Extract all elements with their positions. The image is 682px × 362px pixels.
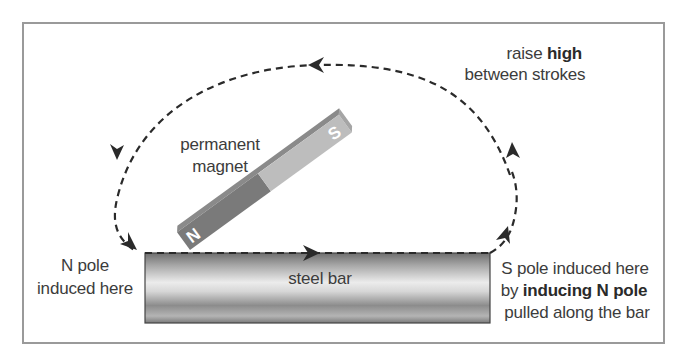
s-pole-label-line2: by inducing N pole bbox=[488, 280, 660, 301]
steel-bar-label: steel bar bbox=[260, 268, 380, 289]
between-strokes-label: between strokes bbox=[455, 64, 595, 85]
magnet-label-line1: permanent bbox=[170, 134, 270, 155]
s-pole-bold: inducing N pole bbox=[523, 281, 648, 300]
raise-high-label: raise high bbox=[460, 43, 582, 64]
raise-prefix: raise bbox=[507, 44, 547, 63]
s-pole-label-line3: pulled along the bar bbox=[492, 302, 662, 323]
arrow-down-icon bbox=[110, 144, 124, 160]
arrow-up-icon bbox=[506, 142, 520, 158]
s-pole-label-line1: S pole induced here bbox=[490, 258, 660, 279]
n-pole-label-line2: induced here bbox=[30, 278, 140, 299]
n-pole-label-line1: N pole bbox=[30, 255, 140, 276]
magnet-label-line2: magnet bbox=[170, 156, 270, 177]
permanent-magnet: N S bbox=[174, 108, 355, 250]
s-pole-prefix: by bbox=[501, 281, 523, 300]
arrow-left-icon bbox=[308, 57, 324, 73]
magnet-south-half bbox=[258, 115, 352, 192]
raise-bold: high bbox=[547, 44, 582, 63]
